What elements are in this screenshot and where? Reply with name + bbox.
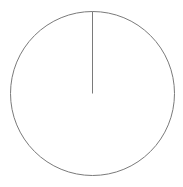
pie-chart [0, 0, 183, 187]
pie-chart-canvas [0, 0, 183, 187]
